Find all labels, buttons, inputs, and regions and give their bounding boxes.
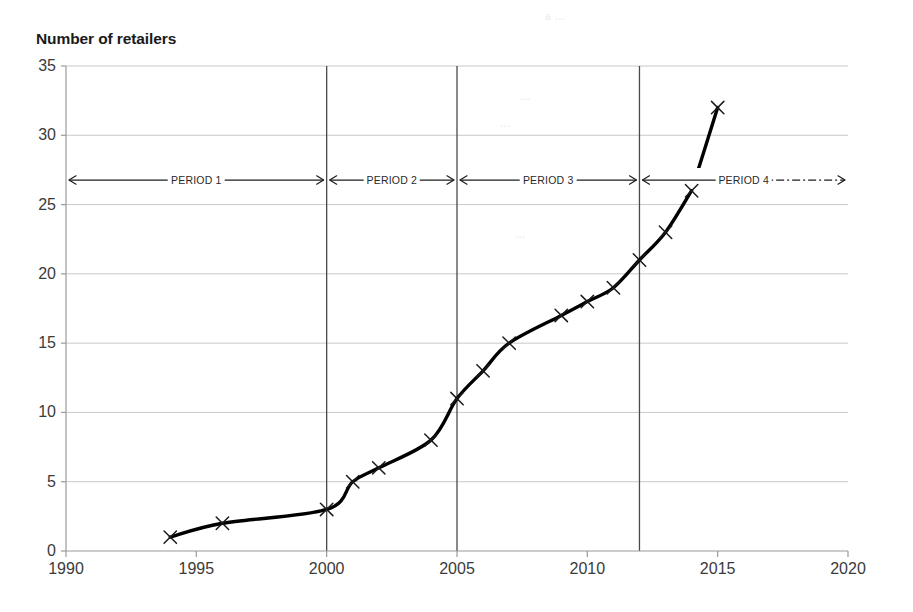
y-tick-label-35: 35 <box>12 57 56 75</box>
plot-canvas <box>0 0 913 612</box>
data-point-marker <box>555 309 567 321</box>
x-tick-label-1995: 1995 <box>161 560 231 578</box>
data-point-marker <box>685 185 697 197</box>
series-path-main <box>170 191 691 537</box>
x-tick-label-2005: 2005 <box>422 560 492 578</box>
y-tick-label-10: 10 <box>12 403 56 421</box>
y-tick-label-5: 5 <box>12 473 56 491</box>
y-tick-label-0: 0 <box>12 542 56 560</box>
series-path-tail <box>692 108 718 191</box>
period-label-2: PERIOD 2 <box>364 174 421 186</box>
x-tick-label-2015: 2015 <box>683 560 753 578</box>
data-point-marker <box>659 226 671 238</box>
y-tick-label-20: 20 <box>12 265 56 283</box>
data-series-line <box>170 108 717 538</box>
y-tick-marks <box>61 66 66 551</box>
x-tick-label-2010: 2010 <box>552 560 622 578</box>
y-tick-label-15: 15 <box>12 334 56 352</box>
x-tick-marks <box>66 551 848 557</box>
data-point-marker <box>373 462 385 474</box>
data-point-marker <box>425 434 437 446</box>
data-point-marker <box>477 365 489 377</box>
period-label-4: PERIOD 4 <box>715 174 772 186</box>
x-tick-label-2000: 2000 <box>292 560 362 578</box>
y-tick-label-30: 30 <box>12 126 56 144</box>
period-divider-lines <box>327 66 640 551</box>
period-label-3: PERIOD 3 <box>520 174 577 186</box>
y-tick-label-25: 25 <box>12 196 56 214</box>
x-tick-label-1990: 1990 <box>31 560 101 578</box>
data-point-marker <box>581 295 593 307</box>
retailers-line-chart: a ... ... ... ... Number of retailers 35… <box>0 0 913 612</box>
period-label-1: PERIOD 1 <box>168 174 225 186</box>
x-tick-label-2020: 2020 <box>813 560 883 578</box>
data-point-marker <box>607 282 619 294</box>
